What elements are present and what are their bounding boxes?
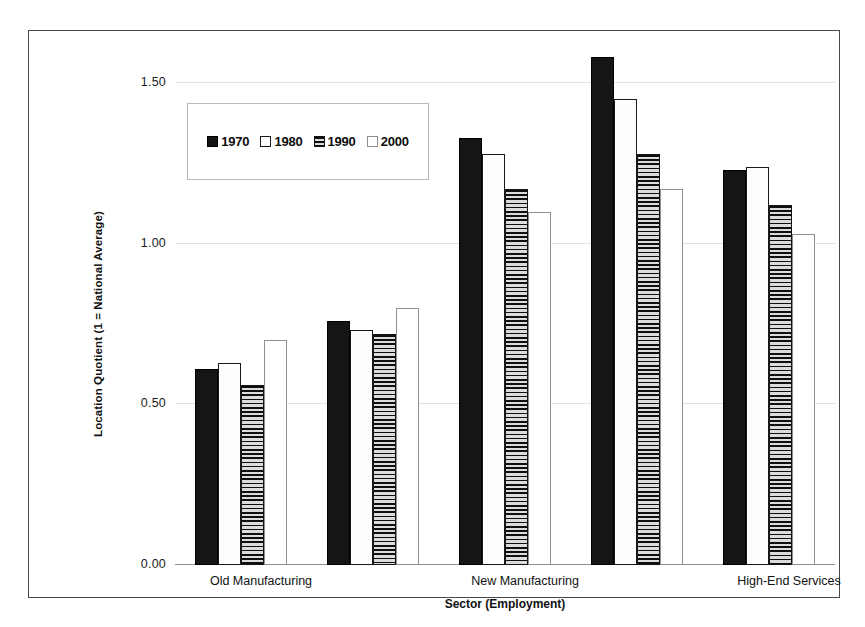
bar: [396, 308, 419, 565]
bar: [637, 154, 660, 565]
x-axis-tick-label: New Manufacturing: [471, 574, 579, 588]
bar: [769, 205, 792, 565]
y-axis-title: Location Quotient (1 = National Average): [89, 83, 107, 565]
bar: [264, 340, 287, 565]
legend-row: 1970198019902000: [207, 134, 409, 149]
legend-label: 1980: [274, 134, 302, 149]
bar-group: High-End Services: [459, 83, 551, 565]
legend-item: 1990: [314, 134, 356, 149]
bar: [723, 170, 746, 565]
legend-label: 1970: [221, 134, 249, 149]
bar: [614, 99, 637, 565]
bar: [591, 57, 614, 565]
bar: [792, 234, 815, 565]
bar: [241, 385, 264, 565]
legend-label: 1990: [328, 134, 356, 149]
legend-swatch-icon: [367, 136, 378, 147]
bar: [350, 330, 373, 565]
bar: [459, 138, 482, 565]
legend-item: 2000: [367, 134, 409, 149]
bar-group: Low-End Services: [591, 83, 683, 565]
x-axis-tick-label: High-End Services: [737, 574, 841, 588]
legend-item: 1970: [207, 134, 249, 149]
bar: [505, 189, 528, 565]
y-axis-tick-label: 0.00: [141, 557, 166, 571]
bar: [528, 212, 551, 565]
legend-swatch-icon: [207, 136, 218, 147]
x-axis-title: Sector (Employment): [175, 597, 835, 611]
y-axis-tick-label: 1.00: [141, 235, 166, 249]
bar: [218, 363, 241, 565]
y-axis-tick-label: 1.50: [141, 75, 166, 89]
legend-swatch-icon: [314, 136, 325, 147]
legend-item: 1980: [260, 134, 302, 149]
y-axis-tick-label: 0.50: [141, 396, 166, 410]
bar: [373, 334, 396, 565]
x-axis-tick-label: Old Manufacturing: [210, 574, 312, 588]
bar: [327, 321, 350, 565]
y-axis-title-text: Location Quotient (1 = National Average): [92, 211, 104, 437]
chart-legend: 1970198019902000: [187, 103, 429, 180]
bar: [746, 167, 769, 565]
figure-frame: Location Quotient (1 = National Average)…: [28, 30, 840, 598]
legend-label: 2000: [381, 134, 409, 149]
bar-group: FIRE: [723, 83, 815, 565]
bar: [195, 369, 218, 565]
legend-swatch-icon: [260, 136, 271, 147]
bar: [482, 154, 505, 565]
bar: [660, 189, 683, 565]
